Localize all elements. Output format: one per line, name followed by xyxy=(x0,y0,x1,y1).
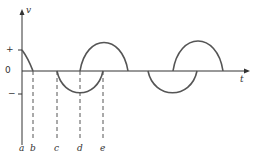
waveform-diagram: v t 0 + − a b c d e xyxy=(0,0,261,158)
t-axis-label: t xyxy=(240,75,244,84)
marker-label-d: d xyxy=(77,144,83,153)
y-axis-arrow-icon xyxy=(20,9,25,15)
y-axis-label: v xyxy=(26,6,31,15)
marker-label-b: b xyxy=(30,144,36,153)
plus-label: + xyxy=(6,45,14,54)
initial-segment xyxy=(22,50,33,71)
marker-label-c: c xyxy=(54,144,59,153)
marker-label-a: a xyxy=(19,144,24,153)
t-axis-arrow-icon xyxy=(244,69,250,74)
zero-label: 0 xyxy=(5,66,11,75)
marker-lines xyxy=(33,71,103,140)
negative-lobe-2 xyxy=(148,71,197,93)
waveform-plot xyxy=(0,0,261,158)
minus-label: − xyxy=(8,89,16,98)
marker-label-e: e xyxy=(100,144,105,153)
positive-hump-2 xyxy=(173,41,223,71)
positive-hump-1 xyxy=(80,43,128,72)
